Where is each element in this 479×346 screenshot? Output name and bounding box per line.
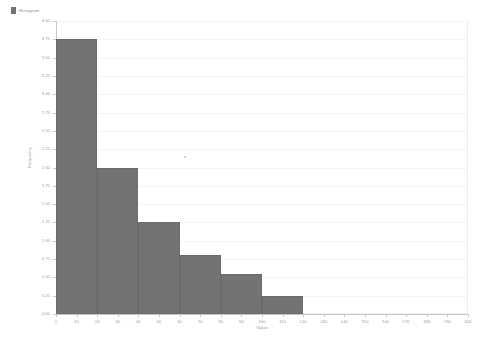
- y-gridline: [57, 94, 468, 95]
- x-tick-label: 100: [258, 319, 265, 324]
- x-tick-label: 70: [198, 319, 203, 324]
- y-tick-label: 1.25: [42, 219, 50, 224]
- x-tick-label: 200: [464, 319, 471, 324]
- y-gridline: [57, 21, 468, 22]
- x-tick-label: 80: [218, 319, 223, 324]
- x-tick-label: 120: [300, 319, 307, 324]
- y-gridline: [57, 204, 468, 205]
- y-tick-label: 2.75: [42, 110, 50, 115]
- artifact-speck: [184, 156, 186, 158]
- y-gridline: [57, 76, 468, 77]
- y-tick-label: 3.50: [42, 55, 50, 60]
- y-gridline: [57, 39, 468, 40]
- y-tick-label: 0.50: [42, 274, 50, 279]
- y-axis-title: Frequency: [27, 128, 32, 188]
- y-gridline: [57, 168, 468, 169]
- x-tick-label: 30: [115, 319, 120, 324]
- legend-color-swatch-icon: [11, 7, 16, 14]
- x-tick-label: 130: [320, 319, 327, 324]
- y-gridline: [57, 149, 468, 150]
- y-gridline: [57, 131, 468, 132]
- y-tick-label: 2.25: [42, 146, 50, 151]
- chart-legend: Histogram: [11, 7, 39, 14]
- y-gridline: [57, 296, 468, 297]
- y-tick-label: 4.00: [42, 18, 50, 23]
- y-axis-line: [56, 21, 57, 314]
- y-gridline: [57, 241, 468, 242]
- y-gridline: [57, 186, 468, 187]
- x-tick-label: 20: [95, 319, 100, 324]
- y-gridline: [57, 58, 468, 59]
- y-tick-label: 0.75: [42, 256, 50, 261]
- x-tick-label: 180: [423, 319, 430, 324]
- y-gridline: [57, 259, 468, 260]
- y-tick-label: 2.00: [42, 165, 50, 170]
- y-gridline: [57, 222, 468, 223]
- x-axis-line: [56, 314, 468, 315]
- x-tick-label: 50: [157, 319, 162, 324]
- x-tick-label: 110: [279, 319, 286, 324]
- x-tick-label: 90: [239, 319, 244, 324]
- legend-label: Histogram: [19, 8, 39, 13]
- x-tick-label: 140: [341, 319, 348, 324]
- x-tick-mark: [468, 314, 469, 317]
- y-tick-label: 1.50: [42, 201, 50, 206]
- y-tick-label: 0.25: [42, 293, 50, 298]
- histogram-chart: Histogram 0.000.250.500.751.001.251.501.…: [0, 0, 479, 346]
- y-tick-label: 2.50: [42, 128, 50, 133]
- y-tick-label: 1.00: [42, 238, 50, 243]
- y-tick-label: 1.75: [42, 183, 50, 188]
- y-gridline: [57, 277, 468, 278]
- x-tick-label: 60: [177, 319, 182, 324]
- x-tick-label: 160: [382, 319, 389, 324]
- x-tick-label: 10: [74, 319, 79, 324]
- x-axis-title: Value: [56, 325, 468, 330]
- x-tick-label: 190: [444, 319, 451, 324]
- y-gridline: [57, 113, 468, 114]
- y-tick-label: 3.25: [42, 73, 50, 78]
- x-tick-label: 0: [55, 319, 57, 324]
- y-tick-label: 3.00: [42, 91, 50, 96]
- x-tick-label: 170: [403, 319, 410, 324]
- y-tick-label: 0.00: [42, 311, 50, 316]
- x-tick-label: 40: [136, 319, 141, 324]
- x-tick-label: 150: [361, 319, 368, 324]
- y-tick-label: 3.75: [42, 36, 50, 41]
